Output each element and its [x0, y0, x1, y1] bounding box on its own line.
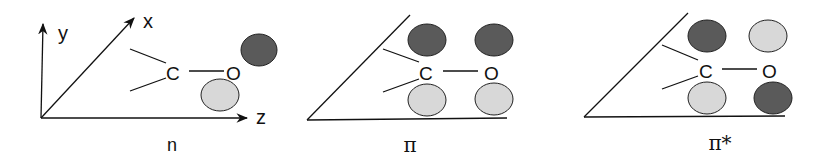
- panel-pi-star: C O π*: [584, 13, 792, 155]
- c-lobe-top-dark: [688, 20, 726, 52]
- z-axis-label: z: [256, 106, 266, 128]
- x-axis-arrow: [41, 18, 134, 118]
- o-lobe-bottom-dark: [754, 82, 792, 114]
- x-axis-label: x: [143, 10, 153, 32]
- plane-edge-diagonal: [584, 13, 688, 117]
- orbital-lobe-light: [201, 79, 239, 111]
- o-lobe-bottom-light: [475, 83, 513, 115]
- o-lobe-top-dark: [475, 24, 513, 56]
- oxygen-atom-label: O: [762, 61, 777, 82]
- y-axis-label: y: [58, 22, 68, 44]
- c-lobe-top-dark: [408, 24, 446, 56]
- orbital-lobe-dark: [241, 34, 277, 66]
- panel-n: y x z C O n: [41, 10, 277, 155]
- carbon-atom-label: C: [699, 61, 713, 82]
- oxygen-atom-label: O: [484, 63, 499, 84]
- carbonyl-orbitals-diagram: y x z C O n C O π C: [0, 0, 834, 163]
- plane-edge-base: [584, 116, 785, 117]
- substituent-bond-upper: [130, 49, 166, 63]
- substituent-bond-lower: [130, 78, 166, 91]
- panel-caption-pi-star: π*: [708, 131, 731, 155]
- substituent-bond-upper: [662, 45, 698, 60]
- y-axis-arrow: [41, 24, 43, 118]
- o-lobe-top-light: [749, 20, 787, 52]
- c-lobe-bottom-light: [688, 82, 726, 114]
- plane-edge-base: [307, 118, 507, 120]
- panel-caption-n: n: [167, 135, 177, 155]
- carbon-atom-label: C: [166, 63, 180, 84]
- carbon-atom-label: C: [419, 63, 433, 84]
- c-lobe-bottom-light: [408, 84, 446, 116]
- panel-caption-pi: π: [403, 133, 416, 157]
- plane-edge-diagonal: [307, 15, 410, 120]
- panel-pi: C O π: [307, 15, 513, 157]
